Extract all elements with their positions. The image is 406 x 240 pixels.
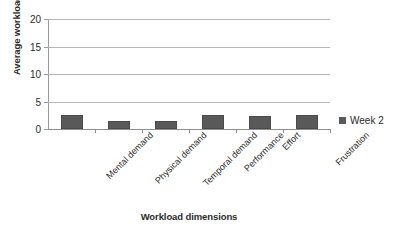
bar [202,115,224,129]
legend-label: Week 2 [350,115,384,126]
bar [296,115,318,129]
bar [249,116,271,129]
plot-area: 05101520 [48,19,330,130]
y-tick-label: 15 [30,41,41,52]
x-tick-mark [330,129,331,133]
y-tick-label: 20 [30,14,41,25]
x-category-label: Mental demand [104,130,155,181]
bar [155,121,177,129]
x-category-label: Effort [280,130,302,152]
legend-swatch-icon [339,117,346,124]
bar-chart: Average workload rating 05101520 Mental … [0,0,406,240]
legend: Week 2 [339,115,384,126]
bar [61,115,83,129]
y-tick-label: 10 [30,69,41,80]
x-axis-title: Workload dimensions [48,211,330,222]
x-category-label: Physical demand [153,130,209,186]
y-axis-title: Average workload rating [10,0,24,84]
x-category-label: Frustration [333,130,370,167]
y-tick-label: 5 [35,96,41,107]
bar [108,121,130,129]
y-tick-label: 0 [35,124,41,135]
bars-group [48,19,330,130]
x-category-labels: Mental demandPhysical demandTemporal dem… [48,130,330,200]
